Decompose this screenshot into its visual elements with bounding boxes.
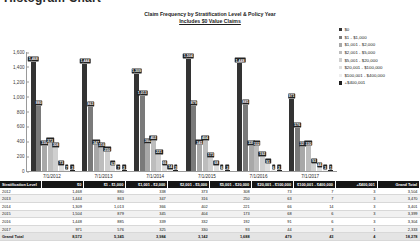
bar-value-label: 1,013 (137, 90, 148, 95)
table-total-cell: 5,345 (84, 233, 126, 241)
stratification-table: Stratification Level$0$1 - $1,000$1,001 … (0, 181, 420, 241)
legend-swatch-icon (339, 28, 342, 31)
bar[interactable]: 1 (328, 170, 333, 171)
bar[interactable]: 3 (277, 170, 282, 171)
chart-title: Claim Frequency by Stratification Level … (120, 11, 300, 25)
chart-title-text: Claim Frequency by Stratification Level … (144, 11, 275, 17)
bar[interactable]: 3 (173, 170, 178, 171)
bar[interactable]: 1,504 (186, 59, 191, 171)
bar[interactable]: 338 (42, 146, 47, 171)
table-cell: 3,401 (377, 203, 419, 211)
table-cell: 879 (84, 210, 126, 218)
bar[interactable]: 332 (254, 146, 259, 171)
bar-value-label: 14 (167, 164, 173, 169)
table-cell: 402 (168, 203, 210, 211)
bar[interactable]: 66 (162, 166, 167, 171)
bar[interactable]: 63 (110, 166, 115, 171)
bar[interactable]: 366 (145, 144, 150, 171)
bar-value-label: 3 (226, 165, 230, 170)
bar[interactable]: 192 (260, 157, 265, 171)
legend-item[interactable]: $1 - $1,000 (339, 34, 419, 42)
table-column-header[interactable]: +$400,001 (336, 181, 378, 188)
bar[interactable]: 3 (323, 170, 328, 171)
legend-item[interactable]: $2,001 - $5,000 (339, 49, 419, 57)
bar[interactable]: 879 (191, 106, 196, 171)
bar[interactable]: 3 (70, 170, 75, 171)
bar[interactable]: 44 (317, 168, 322, 171)
bar[interactable]: 1,448 (237, 63, 242, 171)
table-column-header[interactable]: Grand Total (377, 181, 419, 188)
table-header-row: Stratification Level$0$1 - $1,000$1,001 … (0, 181, 420, 188)
table-column-header[interactable]: $2,001 - $5,000 (168, 181, 210, 188)
bar-value-label: 332 (253, 141, 261, 146)
bar[interactable]: 880 (36, 106, 41, 171)
bar-group: 1,4488853393321929163 (234, 52, 286, 171)
bar[interactable]: 6 (219, 170, 224, 171)
table-column-header[interactable]: $20,001 - $100,000 (252, 181, 294, 188)
table-cell: 93 (210, 225, 252, 233)
table-column-header[interactable]: $0 (42, 181, 84, 188)
legend-item[interactable]: $20,001 - $100,000 (339, 64, 419, 72)
bar[interactable]: 221 (156, 155, 161, 171)
bar[interactable]: 14 (168, 170, 173, 171)
table-row: 20131,44486334731625063733,470 (0, 195, 420, 203)
bar[interactable]: 6 (271, 170, 276, 171)
bar[interactable]: 68 (214, 166, 219, 171)
table-column-header[interactable]: $1 - $1,000 (84, 181, 126, 188)
bar-value-label: 3 (277, 165, 281, 170)
bar[interactable]: 1,309 (134, 74, 139, 171)
table-cell: 173 (210, 210, 252, 218)
bar-group: 1,4448633473162506373 (79, 52, 131, 171)
bar[interactable]: 1,013 (140, 96, 145, 171)
legend-item[interactable]: +$400,001 (339, 79, 419, 87)
legend-item[interactable]: $1,001 - $2,000 (339, 41, 419, 49)
legend-item[interactable]: $5,001 - $20,000 (339, 56, 419, 64)
table-column-header[interactable]: Stratification Level (0, 181, 42, 188)
bar-value-label: 308 (52, 143, 60, 148)
table-cell: 316 (168, 195, 210, 203)
bar[interactable]: 173 (208, 158, 213, 171)
legend-label: $1,001 - $2,000 (344, 42, 375, 47)
bar[interactable]: 3 (122, 170, 127, 171)
bar[interactable]: 93 (311, 164, 316, 171)
bar[interactable]: 1,444 (82, 64, 87, 171)
bar[interactable]: 1,468 (31, 62, 36, 171)
bar[interactable]: 73 (59, 166, 64, 171)
bar[interactable]: 885 (243, 105, 248, 171)
bar[interactable]: 971 (289, 99, 294, 171)
bar[interactable]: 347 (94, 145, 99, 171)
bar[interactable]: 402 (151, 141, 156, 171)
bar[interactable]: 3 (225, 170, 230, 171)
bar[interactable]: 91 (265, 164, 270, 171)
table-cell: 347 (126, 195, 168, 203)
bar[interactable]: 250 (105, 152, 110, 171)
bar[interactable]: 339 (249, 146, 254, 171)
table-cell: 2017 (0, 225, 42, 233)
table-cell: 3 (336, 195, 378, 203)
table-column-header[interactable]: $100,001 - $400,000 (294, 181, 336, 188)
table-cell: 330 (168, 225, 210, 233)
bar-value-label: 6 (220, 165, 224, 170)
table-cell: 1,444 (42, 195, 84, 203)
table-column-header[interactable]: $1,001 - $2,000 (126, 181, 168, 188)
table-cell: 2014 (0, 203, 42, 211)
table-cell: 3,304 (377, 218, 419, 226)
legend-swatch-icon (339, 43, 342, 46)
bar[interactable]: 7 (116, 170, 121, 171)
bar-value-label: 1,504 (183, 54, 194, 59)
bar[interactable]: 308 (53, 148, 58, 171)
table-total-cell: 3,142 (168, 233, 210, 241)
table-column-header[interactable]: $5,001 - $20,000 (210, 181, 252, 188)
chart-legend: $0$1 - $1,000$1,001 - $2,000$2,001 - $5,… (339, 26, 419, 87)
bar[interactable]: 330 (306, 146, 311, 171)
bar-value-label: 7 (117, 165, 121, 170)
table-cell: 2013 (0, 195, 42, 203)
legend-swatch-icon (339, 51, 342, 54)
legend-item[interactable]: $100,001 - $400,000 (339, 72, 419, 80)
legend-item[interactable]: $0 (339, 26, 419, 34)
bar[interactable]: 345 (197, 145, 202, 171)
bar[interactable]: 325 (300, 147, 305, 171)
bar[interactable]: 7 (64, 170, 69, 171)
bar[interactable]: 576 (295, 128, 300, 171)
table-cell: 404 (168, 210, 210, 218)
